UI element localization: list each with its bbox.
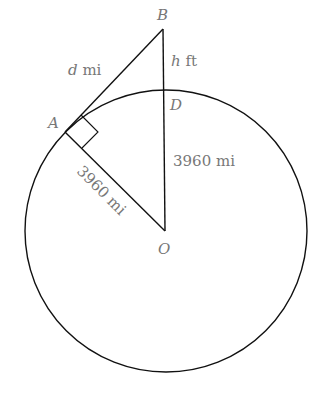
point-d-label: D (169, 96, 182, 114)
radius-od-label: 3960 mi (173, 152, 235, 170)
radius-oa-label: 3960 mi (73, 162, 130, 219)
d-variable: d (68, 61, 78, 79)
earth-tangent-diagram: B A D O d mi h ft 3960 mi 3960 mi (0, 0, 326, 404)
d-unit: mi (78, 61, 102, 79)
height-h-label: h ft (171, 52, 197, 70)
earth-circle (25, 90, 307, 372)
h-unit: ft (181, 52, 197, 70)
point-b-label: B (156, 6, 168, 24)
tangent-line-ab (65, 29, 163, 132)
right-angle-marker (81, 115, 98, 148)
distance-d-label: d mi (68, 61, 102, 79)
h-variable: h (171, 52, 181, 70)
line-bo (163, 29, 165, 231)
point-a-label: A (46, 114, 59, 132)
point-o-label: O (158, 240, 170, 258)
